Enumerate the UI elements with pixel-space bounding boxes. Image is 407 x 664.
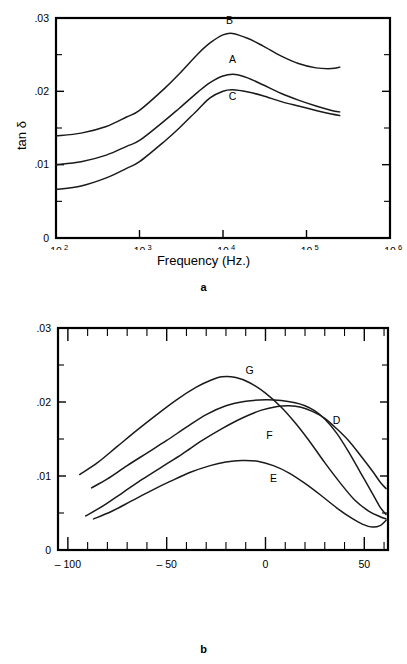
curve-label-B: B [226,14,233,26]
x-tick-exponent: 5 [314,243,318,250]
x-tick-label: 10 [384,245,396,250]
x-tick-label: – 50 [156,558,177,570]
curve-label-C: C [229,90,237,102]
curve-B [56,33,340,136]
y-tick-label: .01 [36,470,51,482]
y-tick-label: .02 [36,396,51,408]
chart-a-y-axis-title: tan δ [14,121,29,150]
x-tick-label: 0 [263,558,269,570]
x-tick-label: 10 [50,245,62,250]
chart-a-svg: 0.01.02.03102103104105106BAC [0,0,407,250]
curve-E [94,460,386,527]
curve-label-E: E [270,472,277,484]
x-tick-label: 10 [301,245,313,250]
x-tick-label: 10 [134,245,146,250]
curve-label-G: G [246,364,254,376]
x-tick-exponent: 2 [64,243,68,250]
curve-C [56,90,340,190]
curve-A [56,74,340,164]
curve-label-A: A [229,53,236,65]
chart-b-svg: 0.01.02.03– 100– 50050GDFE [0,305,407,590]
y-tick-label: 0 [43,232,49,244]
x-tick-label: 50 [358,558,370,570]
panel-b-caption: b [0,643,407,655]
x-tick-exponent: 3 [147,243,151,250]
panel-a-caption: a [0,281,407,293]
y-tick-label: .02 [34,85,49,97]
x-tick-label: – 100 [55,558,81,570]
x-tick-exponent: 4 [231,243,235,250]
y-tick-label: .03 [36,322,51,334]
x-tick-label: 10 [217,245,229,250]
chart-a-x-axis-title: Frequency (Hz.) [0,253,407,268]
plot-frame [58,328,388,550]
y-tick-label: .03 [34,12,49,24]
curve-G [80,377,386,519]
curve-label-F: F [266,429,272,441]
curve-D [92,400,386,515]
y-tick-label: .01 [34,158,49,170]
plot-frame [56,18,390,238]
x-tick-exponent: 6 [398,243,402,250]
chart-panel-a: 0.01.02.03102103104105106BAC tan δ Frequ… [0,0,407,305]
curve-label-D: D [333,414,341,426]
y-tick-label: 0 [45,544,51,556]
chart-panel-b: 0.01.02.03– 100– 50050GDFE tan δ Tempera… [0,305,407,664]
